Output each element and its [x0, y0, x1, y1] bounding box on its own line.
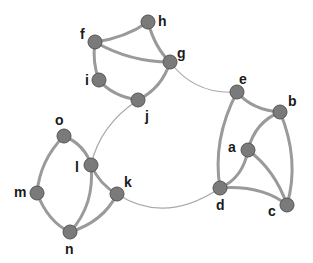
edge-l-n: [70, 165, 92, 232]
node-d: [213, 181, 227, 195]
edge-f-g: [95, 42, 170, 62]
edge-k-d: [117, 188, 220, 208]
node-b: [273, 105, 287, 119]
label-e: e: [239, 71, 247, 87]
label-k: k: [124, 174, 132, 190]
label-l: l: [75, 159, 79, 175]
edges: [37, 22, 292, 232]
node-g: [163, 55, 177, 69]
label-o: o: [55, 112, 64, 128]
edge-o-m: [37, 136, 64, 193]
label-m: m: [14, 184, 26, 200]
edge-j-l: [91, 100, 138, 165]
label-f: f: [80, 26, 85, 42]
edge-f-h: [95, 22, 148, 42]
node-e: [230, 85, 244, 99]
label-j: j: [144, 108, 149, 124]
node-c: [280, 198, 294, 212]
graph-diagram: a b c d e f g h i j k l m n o: [0, 0, 313, 263]
label-i: i: [85, 72, 89, 88]
node-o: [57, 129, 71, 143]
node-l: [84, 158, 98, 172]
label-h: h: [158, 13, 167, 29]
label-a: a: [228, 139, 236, 155]
node-a: [241, 143, 255, 157]
node-j: [131, 93, 145, 107]
edge-m-n: [37, 193, 70, 232]
node-m: [30, 186, 44, 200]
edge-d-c: [220, 188, 287, 205]
label-c: c: [268, 203, 276, 219]
edge-k-n: [70, 194, 117, 232]
nodes: [30, 15, 294, 239]
label-g: g: [177, 45, 186, 61]
node-k: [110, 187, 124, 201]
label-n: n: [65, 241, 74, 257]
node-f: [88, 35, 102, 49]
label-b: b: [288, 93, 297, 109]
node-n: [63, 225, 77, 239]
edge-a-c: [248, 150, 287, 205]
label-d: d: [216, 197, 225, 213]
node-h: [141, 15, 155, 29]
edge-g-e: [170, 62, 237, 92]
node-i: [92, 73, 106, 87]
